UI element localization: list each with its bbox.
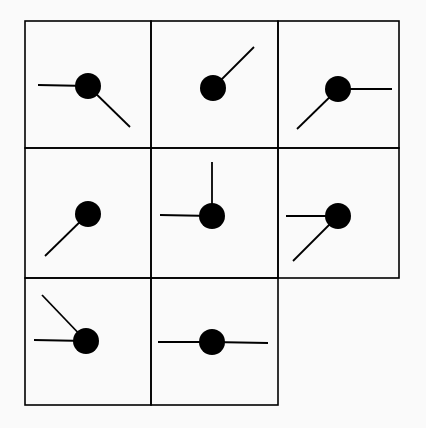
cell-figure-r1-c0 bbox=[45, 201, 101, 256]
cell-figure-r1-c2 bbox=[286, 203, 351, 261]
filled-circle bbox=[75, 73, 101, 99]
cell-figure-r0-c0 bbox=[38, 73, 130, 127]
cell-figures bbox=[34, 47, 392, 355]
filled-circle bbox=[325, 203, 351, 229]
matrix-diagram bbox=[0, 0, 426, 428]
filled-circle bbox=[199, 329, 225, 355]
filled-circle bbox=[200, 75, 226, 101]
filled-circle bbox=[73, 328, 99, 354]
cell-figure-r2-c1 bbox=[158, 329, 268, 355]
filled-circle bbox=[325, 76, 351, 102]
cell-figure-r1-c1 bbox=[160, 162, 225, 229]
filled-circle bbox=[75, 201, 101, 227]
cell-figure-r0-c2 bbox=[297, 76, 392, 129]
cell-figure-r0-c1 bbox=[200, 47, 254, 101]
cell-figure-r2-c0 bbox=[34, 295, 99, 354]
filled-circle bbox=[199, 203, 225, 229]
